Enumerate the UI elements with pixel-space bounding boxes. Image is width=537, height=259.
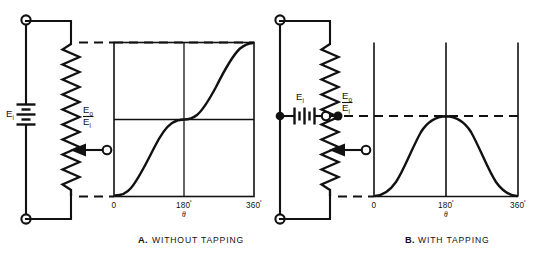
- svg-text:E: E: [6, 108, 12, 119]
- xaxis-title-a: θ: [182, 210, 186, 219]
- panel-a-circuit: E i E o E i: [6, 15, 111, 223]
- svg-text:360: 360: [246, 201, 261, 210]
- wire-top-bridge-b: [280, 21, 330, 44]
- svg-text:i: i: [349, 108, 350, 115]
- panel-b-graph: 0 180 ° 360 ° θ: [338, 43, 526, 220]
- xaxis-title-b: θ: [444, 210, 448, 219]
- degree-mark-180-a: °: [190, 199, 192, 205]
- svg-text:i: i: [90, 122, 91, 129]
- potentiometer-figure: E i E o E i: [0, 0, 537, 259]
- wiper-terminal-circle-b[interactable]: [362, 146, 371, 155]
- source-label-b: E i: [296, 91, 304, 104]
- wire-top-bridge-a: [26, 21, 71, 44]
- panel-b-caption: B. WITH TAPPING: [405, 235, 489, 245]
- svg-text:E: E: [83, 104, 89, 115]
- output-ratio-label-b: E o E i: [342, 90, 353, 115]
- degree-mark-360-b: °: [524, 199, 526, 205]
- panel-a-caption: A. WITHOUT TAPPING: [138, 235, 244, 245]
- degree-mark-180-b: °: [452, 199, 454, 205]
- xaxis-labels-b: 0 180 ° 360 ° θ: [372, 199, 526, 220]
- svg-text:E: E: [83, 116, 89, 127]
- wire-bottom-bridge-a: [26, 196, 71, 219]
- svg-text:i: i: [13, 114, 14, 121]
- svg-text:E: E: [296, 91, 302, 102]
- potentiometer-resistor-a: [63, 44, 80, 196]
- svg-text:0: 0: [112, 201, 117, 210]
- output-ratio-label-a: E o E i: [83, 104, 94, 129]
- wire-bottom-bridge-b: [280, 196, 330, 219]
- source-label-a: E i: [6, 108, 14, 121]
- caption-text-a: WITHOUT TAPPING: [152, 235, 244, 245]
- panel-a-graph: 0 180 ° 360 ° θ: [79, 43, 262, 220]
- svg-text:i: i: [303, 97, 304, 104]
- panel-b-circuit: E i E o E i: [275, 15, 370, 223]
- svg-text:180: 180: [438, 201, 453, 210]
- battery-symbol-b: [295, 108, 315, 125]
- svg-text:E: E: [342, 90, 348, 101]
- svg-text:0: 0: [372, 201, 377, 210]
- svg-text:E: E: [342, 102, 348, 113]
- xaxis-labels-a: 0 180 ° 360 ° θ: [112, 199, 262, 220]
- figure-root: E i E o E i: [0, 0, 537, 259]
- svg-text:360: 360: [510, 201, 525, 210]
- battery-symbol-a: [17, 105, 36, 125]
- caption-letter-b: B.: [405, 235, 415, 245]
- svg-text:180: 180: [176, 201, 191, 210]
- degree-mark-360-a: °: [260, 199, 262, 205]
- wiper-terminal-circle-a[interactable]: [103, 146, 112, 155]
- caption-letter-a: A.: [138, 235, 148, 245]
- caption-text-b: WITH TAPPING: [418, 235, 489, 245]
